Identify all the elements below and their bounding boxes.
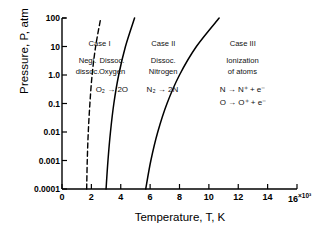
annotation-case-1-right: Dissoc. Oxygen	[99, 55, 125, 77]
annotation-case-3-title: Case III	[230, 38, 256, 49]
annotation-case-2-title: Case II	[151, 38, 175, 49]
annotation-case-1-title: Case I	[89, 38, 111, 49]
pressure-temperature-regime-chart: Pressure, P, atm Temperature, T, K 10010…	[0, 0, 336, 232]
annotation-case-3-sub: Ionization of atoms	[226, 55, 259, 77]
annotation-case-2-sub: Dissoc. Nitrogen	[149, 55, 178, 77]
annotation-case-1-left: Negl. dissoc.	[76, 55, 100, 77]
annotation-oxygen-reaction: O₂ → 2O	[96, 84, 128, 96]
annotation-nitrogen-ionization: N → N⁺ + e⁻	[220, 84, 266, 96]
annotation-oxygen-ionization: O → O⁺ + e⁻	[220, 97, 266, 109]
plot-area	[0, 0, 336, 232]
annotation-nitrogen-reaction: N₂ → 2N	[147, 84, 179, 96]
